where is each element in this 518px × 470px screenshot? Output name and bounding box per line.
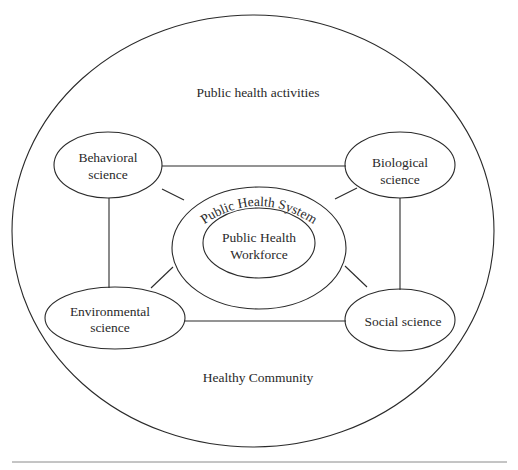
behavioral-science-ellipse [54, 132, 162, 198]
healthy-community-label: Healthy Community [203, 370, 314, 385]
node-biological-science: Biological science [345, 132, 455, 198]
social-science-label: Social science [365, 314, 442, 329]
public-health-workforce: Public Health Workforce [203, 208, 315, 278]
connector-biological-center [335, 188, 357, 199]
connector-environmental-center [151, 267, 173, 288]
node-social-science: Social science [345, 289, 455, 351]
connector-social-center [345, 266, 367, 287]
public-health-diagram: Public health activities Healthy Communi… [0, 0, 518, 470]
public-health-workforce-label-line2: Workforce [230, 247, 287, 262]
behavioral-science-label-line1: Behavioral [78, 150, 137, 165]
public-health-activities-label: Public health activities [197, 85, 320, 100]
environmental-science-label-line2: science [90, 320, 130, 335]
public-health-system-label: Public Health System [198, 194, 320, 227]
environmental-science-label-line1: Environmental [70, 304, 150, 319]
biological-science-label-line1: Biological [372, 155, 428, 170]
connector-behavioral-center [162, 189, 184, 200]
behavioral-science-label-line2: science [88, 167, 128, 182]
node-environmental-science: Environmental science [45, 287, 185, 349]
public-health-system-arc-text: Public Health System [198, 194, 320, 227]
public-health-workforce-label-line1: Public Health [222, 230, 296, 245]
biological-science-label-line2: science [380, 172, 420, 187]
node-behavioral-science: Behavioral science [54, 132, 162, 198]
